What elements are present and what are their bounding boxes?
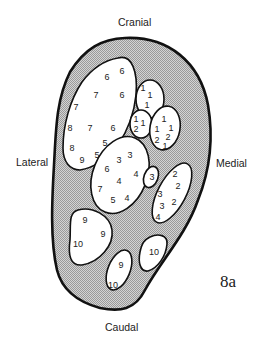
region-number: 7: [97, 184, 102, 194]
label-caudal: Caudal: [105, 321, 138, 333]
region-number: 1: [140, 118, 145, 128]
region-number: 4: [124, 193, 129, 203]
region-number: 5: [94, 150, 99, 160]
region-number: 1: [154, 124, 159, 134]
region-number: 7: [93, 90, 98, 100]
muscle-cross-section-diagram: 6 6 7 6 7 8 7 6 5 8 9 5 1 1 1 1 1 2 1 1 …: [0, 0, 263, 347]
figure-label: 8a: [220, 272, 237, 291]
region-number: 1: [161, 114, 166, 124]
region-number: 1: [147, 90, 152, 100]
region-number: 3: [159, 201, 164, 211]
region-number: 3: [116, 155, 121, 165]
region-number: 4: [155, 212, 160, 222]
region-number: 10: [149, 247, 159, 257]
region-number: 6: [119, 66, 124, 76]
region-number: 6: [104, 72, 109, 82]
region-number: 1: [133, 114, 138, 124]
region-number: 7: [73, 102, 78, 112]
region-number: 2: [172, 169, 177, 179]
label-medial: Medial: [216, 157, 247, 169]
region-number: 9: [118, 260, 123, 270]
region-number: 8: [69, 143, 74, 153]
region-number: 1: [144, 100, 149, 110]
label-lateral: Lateral: [16, 156, 48, 168]
region-number: 3: [157, 189, 162, 199]
region-number: 7: [87, 123, 92, 133]
region-number: 6: [119, 90, 124, 100]
region-number: 9: [82, 215, 87, 225]
region-number: 6: [104, 164, 109, 174]
region-number: 1: [162, 141, 167, 151]
region-number: 4: [133, 169, 138, 179]
region-number: 5: [102, 138, 107, 148]
region-number: 3: [149, 172, 154, 182]
region-number: 3: [127, 150, 132, 160]
region-number: 10: [108, 280, 118, 290]
region-number: 5: [110, 195, 115, 205]
region-number: 2: [171, 197, 176, 207]
region-number: 9: [79, 155, 84, 165]
region-number: 6: [110, 123, 115, 133]
region-number: 8: [67, 123, 72, 133]
region-number: 9: [100, 229, 105, 239]
region-number: 4: [116, 176, 121, 186]
region-number: 2: [133, 124, 138, 134]
region-number: 2: [175, 181, 180, 191]
region-number: 2: [154, 135, 159, 145]
region-number: 10: [73, 239, 83, 249]
label-cranial: Cranial: [118, 16, 151, 28]
region-number: 1: [140, 83, 145, 93]
